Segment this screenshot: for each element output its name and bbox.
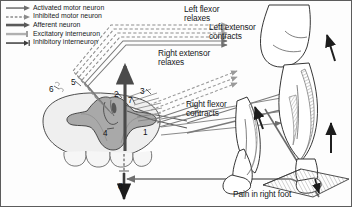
pathway-number-1: 1 bbox=[143, 128, 148, 137]
legend-label-excitatory-interneuron: Excitatory interneuron bbox=[33, 30, 100, 37]
legend-label-inhibitory-interneuron: Inhibitory interneuron bbox=[33, 38, 98, 45]
pelvis-outline bbox=[260, 5, 310, 67]
legend-item-afferent-neuron: Afferent neuron bbox=[5, 21, 117, 29]
legend-item-inhibitory-interneuron: Inhibitory interneuron bbox=[5, 39, 117, 47]
pathway-number-2: 2 bbox=[114, 90, 119, 99]
legend-item-inhibited-motor-neuron: Inhibited motor neuron bbox=[5, 13, 117, 21]
ventral-scallops bbox=[64, 151, 152, 167]
thick-solid-arrow-icon bbox=[5, 21, 31, 29]
legend-label-activated-motor-neuron: Activated motor neuron bbox=[33, 4, 104, 11]
light-bar-arrow-icon bbox=[5, 30, 31, 38]
pathway-number-7: 7 bbox=[128, 96, 133, 105]
solid-bar-arrow-icon bbox=[5, 39, 31, 47]
pathway-number-3: 3 bbox=[140, 87, 145, 96]
solid-arrow-icon bbox=[5, 4, 31, 12]
label-right-extensor: Right extensor relaxes bbox=[158, 49, 210, 67]
label-left-extensor: Left extensor contracts bbox=[209, 23, 256, 41]
legend-item-activated-motor-neuron: Activated motor neuron bbox=[5, 4, 117, 12]
legend: Activated motor neuron Inhibited motor n… bbox=[5, 4, 117, 46]
crossed-extensor-reflex-figure: Activated motor neuron Inhibited motor n… bbox=[0, 0, 352, 207]
legend-label-afferent-neuron: Afferent neuron bbox=[33, 21, 80, 28]
pathway-number-8: 8 bbox=[118, 182, 123, 191]
legend-item-excitatory-interneuron: Excitatory interneuron bbox=[5, 30, 117, 38]
upward-motion-arrow-hip bbox=[327, 35, 335, 61]
pathway-number-5: 5 bbox=[71, 78, 76, 87]
legend-label-inhibited-motor-neuron: Inhibited motor neuron bbox=[33, 12, 102, 19]
label-right-flexor: Right flexor contracts bbox=[186, 100, 227, 118]
pathway-number-6: 6 bbox=[49, 85, 54, 94]
dashed-arrow-icon bbox=[5, 13, 31, 21]
label-pain-in-right-foot: Pain in right foot bbox=[233, 190, 291, 199]
pathway-number-4: 4 bbox=[103, 129, 108, 138]
label-left-flexor: Left flexor relaxes bbox=[184, 5, 219, 23]
